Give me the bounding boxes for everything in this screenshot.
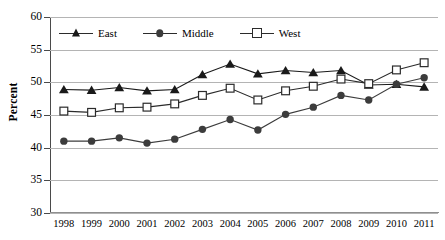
y-axis-tick-mark [44, 82, 50, 83]
legend-marker-icon [156, 29, 164, 37]
data-point-marker [88, 137, 95, 144]
data-point-marker [198, 70, 208, 78]
data-point-marker [88, 108, 96, 116]
data-point-marker [115, 104, 123, 112]
data-point-marker [171, 135, 178, 142]
data-point-marker [226, 116, 233, 123]
data-point-marker [116, 134, 123, 141]
data-point-marker [60, 137, 67, 144]
data-point-marker [393, 66, 401, 74]
data-point-marker [365, 96, 372, 103]
data-point-marker [226, 84, 234, 92]
y-axis-tick-mark [44, 213, 50, 214]
data-point-marker [337, 75, 345, 83]
y-axis-tick-mark [44, 50, 50, 51]
chart-legend: EastMiddleWest [59, 25, 300, 41]
legend-item-label: East [98, 27, 117, 39]
data-point-marker [170, 85, 180, 93]
y-axis-tick-mark [44, 148, 50, 149]
y-axis-tick-mark [44, 180, 50, 181]
legend-item-label: West [279, 27, 301, 39]
data-point-marker [393, 81, 400, 88]
legend-marker-icon [72, 29, 80, 37]
data-point-marker [143, 139, 150, 146]
data-point-marker [281, 66, 291, 74]
y-axis-tick-mark [44, 115, 50, 116]
legend-item-label: Middle [182, 27, 214, 39]
data-point-marker [199, 92, 207, 100]
data-point-marker [171, 100, 179, 108]
data-point-marker [114, 83, 124, 91]
y-axis-tick-mark [44, 17, 50, 18]
legend-marker-icon [252, 28, 262, 38]
data-point-marker [254, 126, 261, 133]
data-point-marker [199, 126, 206, 133]
data-point-marker [310, 103, 317, 110]
data-point-marker [282, 111, 289, 118]
legend-swatch-filled-circle-icon [143, 27, 177, 39]
data-point-marker [420, 74, 427, 81]
legend-item-east[interactable]: East [59, 27, 117, 39]
data-point-marker [225, 59, 235, 67]
chart-figure: Percent 30354045505560 EastMiddleWest 19… [0, 0, 445, 240]
data-point-marker [282, 87, 290, 95]
legend-swatch-filled-triangle-icon [59, 27, 93, 39]
data-point-marker [254, 96, 262, 104]
data-point-marker [309, 82, 317, 90]
legend-item-west[interactable]: West [240, 27, 301, 39]
data-point-marker [143, 103, 151, 111]
data-point-marker [420, 59, 428, 67]
series-east [59, 59, 429, 94]
x-axis-tick-label: 2011 [407, 219, 441, 230]
legend-swatch-open-square-icon [240, 27, 274, 39]
data-point-marker [336, 66, 346, 74]
legend-item-middle[interactable]: Middle [143, 27, 214, 39]
data-point-marker [337, 92, 344, 99]
data-point-marker [60, 107, 68, 115]
data-point-marker [365, 80, 373, 88]
